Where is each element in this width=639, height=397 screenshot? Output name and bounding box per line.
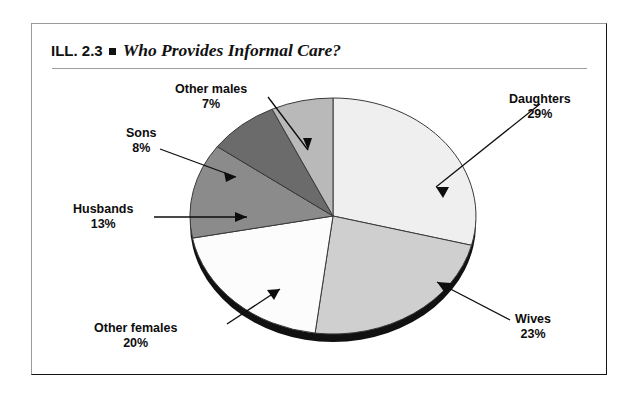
callout-other-males: Other males 7% [175, 82, 247, 112]
callout-other-males-name: Other males [175, 82, 247, 96]
figure-frame: ILL. 2.3Who Provides Informal Care? [31, 23, 607, 375]
callout-husbands-pct: 13% [73, 217, 133, 232]
callout-husbands: Husbands 13% [73, 202, 133, 232]
callout-wives: Wives 23% [515, 312, 551, 342]
callout-sons-pct: 8% [126, 141, 157, 156]
callout-daughters-pct: 29% [509, 107, 571, 122]
callout-sons: Sons 8% [126, 126, 157, 156]
callout-daughters: Daughters 29% [509, 92, 571, 122]
callout-husbands-name: Husbands [73, 202, 133, 216]
callout-other-females-name: Other females [94, 321, 177, 335]
callout-wives-pct: 23% [515, 327, 551, 342]
callout-other-females: Other females 20% [94, 321, 177, 351]
callout-daughters-name: Daughters [509, 92, 571, 106]
callout-wives-name: Wives [515, 312, 551, 326]
callout-other-males-pct: 7% [175, 97, 247, 112]
pie-chart: Daughters 29% Wives 23% Other females 20… [32, 24, 608, 376]
callout-other-females-pct: 20% [94, 336, 177, 351]
figure-page: ILL. 2.3Who Provides Informal Care? [0, 0, 639, 397]
pie-slices [190, 98, 476, 334]
callout-sons-name: Sons [126, 126, 157, 140]
